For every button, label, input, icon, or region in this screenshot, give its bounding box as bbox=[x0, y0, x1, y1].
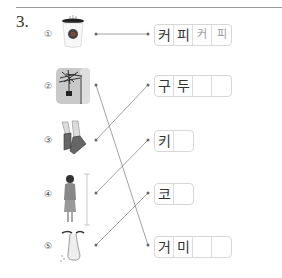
line-4-tall bbox=[96, 140, 148, 193]
answer-cell-blank[interactable] bbox=[174, 131, 193, 151]
answer-cell[interactable]: 미 bbox=[174, 237, 193, 257]
line-3-shoes bbox=[96, 85, 148, 140]
dot-left-4 bbox=[95, 192, 98, 195]
dot-left-5 bbox=[95, 244, 98, 247]
answer-cell-blank[interactable] bbox=[212, 76, 231, 96]
answer-cell-blank[interactable] bbox=[212, 237, 231, 257]
answer-box-shoes[interactable]: 구 두 bbox=[154, 75, 232, 97]
tall-woman-icon bbox=[62, 172, 92, 228]
dot-right-3 bbox=[147, 139, 150, 142]
dot-left-1 bbox=[95, 33, 98, 36]
item-marker-4: ④ bbox=[42, 188, 54, 200]
dot-right-4 bbox=[147, 192, 150, 195]
dot-right-5 bbox=[147, 244, 150, 247]
dot-right-2 bbox=[147, 84, 150, 87]
nose-icon bbox=[58, 228, 88, 264]
item-marker-2: ② bbox=[42, 80, 54, 92]
answer-box-nose[interactable]: 코 bbox=[154, 183, 194, 205]
dot-left-3 bbox=[95, 139, 98, 142]
item-marker-3: ③ bbox=[42, 134, 54, 146]
item-marker-1: ① bbox=[42, 28, 54, 40]
answer-cell[interactable]: 구 bbox=[155, 76, 174, 96]
answer-box-height[interactable]: 키 bbox=[154, 130, 194, 152]
answer-cell-trace[interactable]: 커 bbox=[193, 25, 212, 45]
answer-cell-trace[interactable]: 피 bbox=[212, 25, 231, 45]
answer-cell[interactable]: 두 bbox=[174, 76, 193, 96]
answer-cell[interactable]: 커 bbox=[155, 25, 174, 45]
line-2-spider bbox=[96, 85, 148, 245]
dot-right-1 bbox=[147, 33, 150, 36]
answer-cell[interactable]: 코 bbox=[155, 184, 174, 204]
line-5-nose bbox=[96, 193, 148, 245]
answer-cell[interactable]: 피 bbox=[174, 25, 193, 45]
answer-cell-blank[interactable] bbox=[193, 237, 212, 257]
answer-cell-blank[interactable] bbox=[174, 184, 193, 204]
spider-icon bbox=[56, 68, 90, 104]
shoes-icon bbox=[58, 120, 88, 156]
dot-left-2 bbox=[95, 84, 98, 87]
coffee-cup-icon bbox=[60, 12, 86, 50]
item-marker-5: ⑤ bbox=[42, 240, 54, 252]
answer-cell-blank[interactable] bbox=[193, 76, 212, 96]
answer-cell[interactable]: 거 bbox=[155, 237, 174, 257]
answer-cell[interactable]: 키 bbox=[155, 131, 174, 151]
answer-box-spider[interactable]: 거 미 bbox=[154, 236, 232, 258]
answer-box-coffee[interactable]: 커 피 커 피 bbox=[154, 24, 232, 46]
